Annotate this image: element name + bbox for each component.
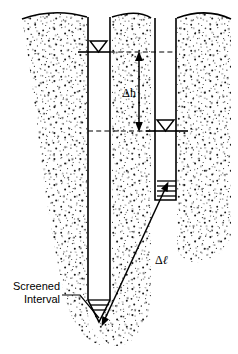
shallow-well (155, 18, 176, 200)
deep-well-interior (88, 17, 110, 322)
screened-interval-label-line2: Interval (24, 293, 60, 305)
soil-block-right (177, 13, 231, 263)
figure-root: Δh Δℓ Screened Interval (0, 0, 238, 354)
soil-texture-right-overlay (177, 13, 231, 263)
shallow-well-interior (155, 18, 176, 200)
head-difference-label: Δh (122, 86, 136, 100)
flow-length-label: Δℓ (155, 253, 168, 267)
deep-well (88, 17, 110, 322)
flow-length-label-ell: ℓ (163, 253, 168, 267)
hydrogeology-cross-section-diagram: Δh Δℓ Screened Interval (0, 0, 238, 354)
screened-interval-label-line1: Screened (13, 280, 60, 292)
